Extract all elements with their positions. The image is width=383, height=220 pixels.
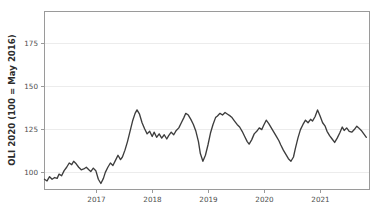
gridlines — [45, 44, 370, 173]
x-tick-label-2017: 2017 — [87, 195, 105, 204]
line-chart: 175 150 125 100 2017 2018 2019 2020 2021… — [0, 0, 383, 220]
y-tick-label-100: 100 — [24, 168, 38, 177]
x-tick-label-2020: 2020 — [255, 195, 274, 204]
y-axis-title: OLI 2020 (100 = May 2016) — [7, 34, 17, 166]
x-tick-label-2021: 2021 — [311, 195, 329, 204]
x-axis-tick-labels: 2017 2018 2019 2020 2021 — [87, 195, 329, 204]
x-tick-label-2019: 2019 — [199, 195, 218, 204]
plot-frame — [45, 12, 370, 190]
x-axis-ticks — [97, 190, 321, 194]
chart-figure: 175 150 125 100 2017 2018 2019 2020 2021… — [0, 0, 383, 220]
x-tick-label-2018: 2018 — [143, 195, 162, 204]
y-tick-label-175: 175 — [24, 39, 38, 48]
y-axis-ticks — [41, 44, 45, 173]
y-tick-label-150: 150 — [24, 82, 38, 91]
y-tick-label-125: 125 — [24, 125, 38, 134]
y-axis-tick-labels: 175 150 125 100 — [24, 39, 38, 177]
